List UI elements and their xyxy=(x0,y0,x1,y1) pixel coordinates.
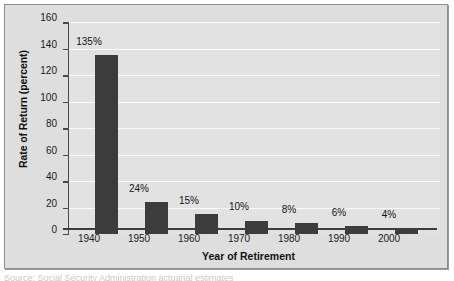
y-axis-label-20: 20 xyxy=(11,199,57,209)
x-axis-label-2000: 2000 xyxy=(366,234,412,244)
y-axis-tick-labels: 160 140 120 100 80 60 40 20 0 xyxy=(9,0,57,281)
x-axis-label-1960: 1960 xyxy=(166,234,212,244)
bar-value-1990: 6% xyxy=(316,208,362,218)
gridline-40 xyxy=(69,181,440,182)
ytick-40 xyxy=(63,181,69,183)
ytick-100 xyxy=(63,102,69,104)
bar-value-1940: 135% xyxy=(66,37,112,47)
figure-container: Rate of Return (percent) 160 140 120 100… xyxy=(0,0,454,281)
gridline-160 xyxy=(69,22,440,23)
gridline-120 xyxy=(69,75,440,76)
ytick-20 xyxy=(63,208,69,210)
bar-1960[interactable] xyxy=(195,214,218,234)
y-axis-label-60: 60 xyxy=(11,146,57,156)
y-axis-label-80: 80 xyxy=(11,119,57,129)
y-axis-label-120: 120 xyxy=(11,66,57,76)
gridline-140 xyxy=(69,49,440,50)
x-axis-label-1990: 1990 xyxy=(316,234,362,244)
y-axis-label-100: 100 xyxy=(11,93,57,103)
x-axis-label-1970: 1970 xyxy=(216,234,262,244)
bar-value-1970: 10% xyxy=(216,202,262,212)
y-axis-label-0: 0 xyxy=(11,225,57,235)
gridline-80 xyxy=(69,128,440,129)
x-axis-title: Year of Retirement xyxy=(63,250,434,262)
bar-value-1960: 15% xyxy=(166,196,212,206)
source-caption: Source: Social Security Administration a… xyxy=(4,273,450,281)
ytick-160 xyxy=(63,22,69,24)
x-axis-label-1980: 1980 xyxy=(266,234,312,244)
gridline-100 xyxy=(69,102,440,103)
bar-1940[interactable] xyxy=(95,55,118,234)
ytick-80 xyxy=(63,128,69,130)
bar-value-1950: 24% xyxy=(116,184,162,194)
x-axis-label-1940: 1940 xyxy=(66,234,112,244)
ytick-60 xyxy=(63,155,69,157)
bar-value-2000: 4% xyxy=(366,210,412,220)
x-axis-line xyxy=(63,228,437,230)
y-axis-label-140: 140 xyxy=(11,40,57,50)
bar-value-1980: 8% xyxy=(266,205,312,215)
y-axis-label-40: 40 xyxy=(11,172,57,182)
ytick-140 xyxy=(63,49,69,51)
x-axis-label-1950: 1950 xyxy=(116,234,162,244)
y-axis-label-160: 160 xyxy=(11,13,57,23)
gridline-60 xyxy=(69,155,440,156)
ytick-120 xyxy=(63,75,69,77)
